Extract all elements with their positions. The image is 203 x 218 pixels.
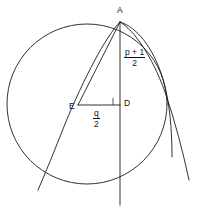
point-label-E: E [69, 102, 75, 111]
label-segment-AD-numerator: p + 1 [124, 48, 145, 58]
label-segment-AD-denominator: 2 [124, 58, 145, 67]
geometry-figure: A D E p + 1 2 q 2 [0, 0, 203, 218]
label-segment-ED-denominator: 2 [93, 119, 100, 128]
label-segment-ED-numerator: q [93, 109, 100, 119]
point-label-D: D [124, 99, 130, 108]
label-segment-ED: q 2 [93, 109, 100, 129]
parabola-right-branch [120, 22, 189, 180]
label-segment-AD: p + 1 2 [124, 48, 145, 68]
point-label-A: A [117, 6, 123, 15]
segment-A-to-E [78, 22, 120, 105]
figure-canvas [0, 0, 203, 218]
